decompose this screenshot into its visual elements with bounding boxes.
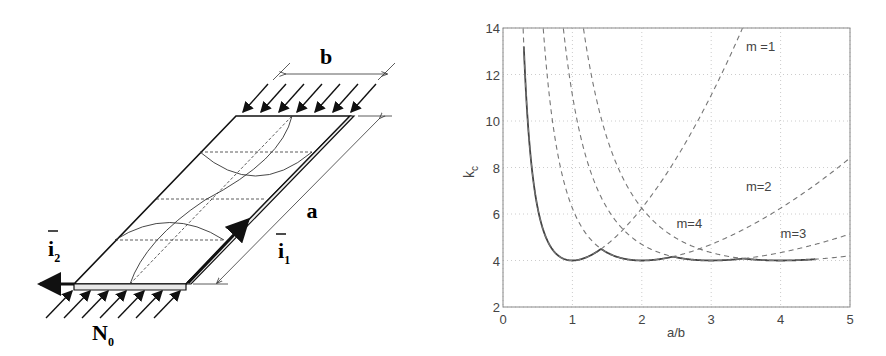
plate-buckling-diagram: b a i1 i2 N0 [0, 0, 440, 356]
y-tick-label: 14 [486, 21, 500, 36]
curve-annotations: m =1m=2m=4m=3 [677, 39, 807, 241]
label-N0: N0 [92, 320, 114, 349]
curve-m3 [563, 29, 850, 261]
envelope-curve [524, 47, 815, 261]
x-axis-label: a/b [667, 325, 685, 340]
label-a: a [307, 198, 318, 223]
label-b: b [320, 44, 332, 69]
x-tick-label: 1 [569, 312, 576, 327]
y-axis-label: kc [461, 166, 480, 178]
buckling-coefficient-chart: 0123452468101214 m =1m=2m=4m=3 a/b kc [440, 0, 886, 356]
x-tick-label: 3 [708, 312, 715, 327]
y-tick-label: 12 [486, 68, 500, 83]
top-load-arrows [243, 84, 376, 112]
x-tick-label: 0 [499, 312, 506, 327]
curve-label: m=3 [781, 226, 807, 241]
curve-label: m=4 [677, 216, 703, 231]
y-tick-label: 10 [486, 114, 500, 129]
label-i1: i1 [278, 238, 290, 267]
curve-m4 [584, 29, 850, 261]
curve-label: m=2 [746, 179, 772, 194]
b-dimension [273, 63, 395, 80]
x-tick-label: 2 [638, 312, 645, 327]
chart-grid [503, 28, 850, 307]
x-tick-label: 5 [846, 312, 853, 327]
y-tick-label: 6 [493, 207, 500, 222]
y-tick-label: 8 [493, 161, 500, 176]
curve-label: m =1 [746, 39, 775, 54]
label-i2: i2 [48, 236, 60, 265]
bottom-load-arrows [46, 291, 180, 318]
y-tick-label: 4 [493, 254, 500, 269]
axis-ticks: 0123452468101214 [486, 21, 854, 327]
x-tick-label: 4 [777, 312, 784, 327]
curve-m1 [523, 28, 742, 260]
y-tick-label: 2 [493, 300, 500, 315]
